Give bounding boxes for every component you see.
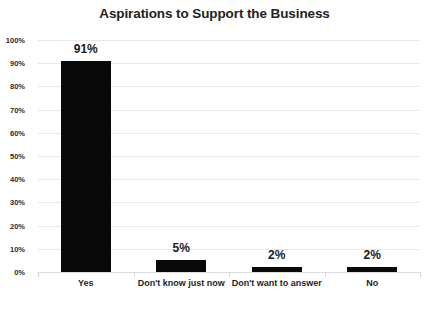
y-axis-tick-label: 70% <box>0 105 25 114</box>
y-axis-tick-label: 60% <box>0 128 25 137</box>
y-axis-tick-label: 20% <box>0 221 25 230</box>
y-axis-tick-label: 90% <box>0 59 25 68</box>
chart-title: Aspirations to Support the Business <box>0 6 429 21</box>
y-axis-tick-label: 10% <box>0 244 25 253</box>
bar[interactable] <box>61 61 111 272</box>
y-axis-tick-label: 0% <box>0 268 25 277</box>
bar-value-label: 2% <box>237 248 317 262</box>
x-axis-category-label: Yes <box>40 277 132 289</box>
bar[interactable] <box>156 260 206 272</box>
category-tick <box>38 272 39 277</box>
bar-value-label: 5% <box>141 241 221 255</box>
bar-value-label: 91% <box>46 42 126 56</box>
y-axis-tick-label: 40% <box>0 175 25 184</box>
category-tick <box>229 272 230 277</box>
category-tick <box>420 272 421 277</box>
bar-chart: Aspirations to Support the Business 100%… <box>0 0 429 316</box>
y-axis-tick-label: 80% <box>0 82 25 91</box>
x-axis-category-label: Don't want to answer <box>231 277 323 289</box>
x-axis-category-label: No <box>327 277 419 289</box>
gridline <box>38 40 420 41</box>
bar-value-label: 2% <box>332 248 412 262</box>
y-axis-tick-label: 50% <box>0 152 25 161</box>
y-axis-tick-label: 100% <box>0 36 25 45</box>
x-axis-category-label: Don't know just now <box>136 277 228 289</box>
plot-area: 100%90%80%70%60%50%40%30%20%10%0% 91%5%2… <box>38 40 420 272</box>
y-axis-tick-label: 30% <box>0 198 25 207</box>
bar[interactable] <box>252 267 302 272</box>
bar[interactable] <box>347 267 397 272</box>
